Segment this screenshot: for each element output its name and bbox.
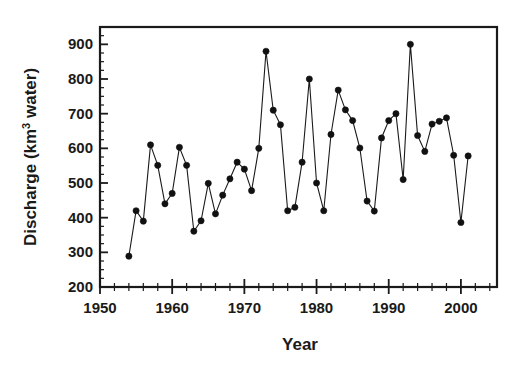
data-point — [407, 41, 413, 47]
data-point — [313, 180, 319, 186]
y-tick-label: 300 — [68, 243, 93, 260]
data-point — [256, 145, 262, 151]
y-axis-title-prefix: Discharge (km — [21, 129, 40, 246]
data-point — [378, 135, 384, 141]
data-point — [386, 118, 392, 124]
data-point — [364, 198, 370, 204]
data-point — [184, 162, 190, 168]
x-tick-label: 1950 — [83, 299, 116, 316]
data-point — [140, 218, 146, 224]
data-point — [133, 208, 139, 214]
x-axis-tick-labels: 195019601970198019902000 — [83, 299, 477, 316]
chart-figure: 200300400500600700800900 195019601970198… — [0, 0, 523, 369]
y-tick-label: 500 — [68, 174, 93, 191]
data-point — [169, 190, 175, 196]
data-point — [443, 115, 449, 121]
data-point — [371, 208, 377, 214]
data-point — [335, 87, 341, 93]
data-point — [429, 121, 435, 127]
x-tick-label: 1990 — [372, 299, 405, 316]
data-point — [227, 176, 233, 182]
x-tick-label: 2000 — [444, 299, 477, 316]
y-tick-label: 900 — [68, 35, 93, 52]
data-point — [292, 204, 298, 210]
data-point — [285, 208, 291, 214]
data-point — [126, 253, 132, 259]
y-axis-tick-labels: 200300400500600700800900 — [68, 35, 93, 295]
data-point — [357, 145, 363, 151]
data-point — [147, 142, 153, 148]
data-point — [321, 208, 327, 214]
y-axis-title: Discharge (km3 water) — [20, 68, 40, 246]
data-point — [451, 152, 457, 158]
data-point — [176, 144, 182, 150]
svg-text:Discharge (km3 water): Discharge (km3 water) — [20, 68, 40, 246]
data-point — [342, 107, 348, 113]
y-tick-label: 400 — [68, 209, 93, 226]
x-tick-label: 1980 — [300, 299, 333, 316]
data-point — [191, 228, 197, 234]
data-point — [277, 122, 283, 128]
y-tick-label: 800 — [68, 70, 93, 87]
data-point — [350, 118, 356, 124]
x-axis-title: Year — [282, 335, 318, 354]
data-point — [465, 153, 471, 159]
data-point — [162, 201, 168, 207]
plot-area-background — [100, 27, 497, 287]
data-point — [248, 188, 254, 194]
data-point — [241, 166, 247, 172]
data-point — [393, 111, 399, 117]
data-point — [198, 218, 204, 224]
data-point — [328, 131, 334, 137]
data-point — [436, 118, 442, 124]
y-axis-title-suffix: water) — [21, 68, 40, 123]
data-point — [299, 159, 305, 165]
y-tick-label: 200 — [68, 278, 93, 295]
data-point — [155, 162, 161, 168]
data-point — [306, 76, 312, 82]
data-point — [400, 176, 406, 182]
data-point — [458, 219, 464, 225]
data-point — [212, 211, 218, 217]
data-point — [234, 159, 240, 165]
discharge-line-chart: 200300400500600700800900 195019601970198… — [0, 0, 523, 369]
data-point — [422, 148, 428, 154]
data-point — [270, 107, 276, 113]
data-point — [263, 48, 269, 54]
y-tick-label: 600 — [68, 139, 93, 156]
x-tick-label: 1970 — [228, 299, 261, 316]
x-tick-label: 1960 — [155, 299, 188, 316]
data-point — [415, 132, 421, 138]
data-point — [220, 192, 226, 198]
y-tick-label: 700 — [68, 105, 93, 122]
data-point — [205, 180, 211, 186]
